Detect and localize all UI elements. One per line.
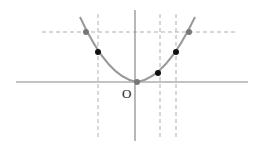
point-black-right-low [155,70,161,76]
point-black-right-high [173,49,179,55]
point-gray-left [83,29,89,35]
point-origin [134,79,140,85]
parabola-diagram: O [0,0,255,146]
origin-label: O [122,86,131,101]
point-gray-right [186,29,192,35]
point-black-left [95,49,101,55]
